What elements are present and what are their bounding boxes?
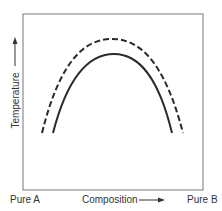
x-axis-label: Composition bbox=[82, 194, 138, 205]
x-right-label: Pure B bbox=[187, 194, 218, 205]
phase-diagram bbox=[0, 0, 222, 211]
y-axis-label: Temperature bbox=[10, 70, 21, 132]
x-left-label: Pure A bbox=[10, 194, 40, 205]
lower-solid-curve bbox=[53, 54, 172, 133]
composition-arrowhead-icon bbox=[158, 198, 165, 203]
plot-frame bbox=[23, 14, 203, 190]
temperature-arrowhead-icon bbox=[13, 37, 18, 44]
